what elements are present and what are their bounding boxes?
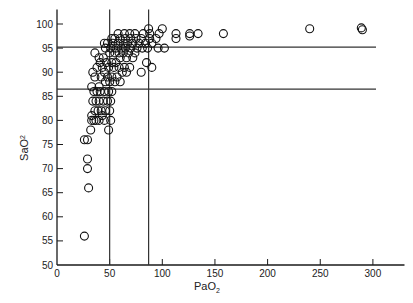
x-tick-label: 0 — [54, 268, 60, 279]
x-axis-title: PaO2 — [194, 280, 220, 294]
data-points — [80, 24, 366, 240]
data-point — [172, 35, 180, 43]
y-tick-label: 85 — [42, 91, 54, 102]
y-tick-label: 65 — [42, 187, 54, 198]
y-tick-label: 90 — [42, 67, 54, 78]
data-point — [143, 59, 151, 67]
tick-labels: 0501001502002503005055606570758085909510… — [36, 19, 381, 280]
x-tick-label: 100 — [154, 268, 171, 279]
data-point — [84, 155, 92, 163]
data-point — [87, 126, 95, 134]
data-point — [89, 68, 97, 76]
data-point — [194, 30, 202, 38]
y-tick-label: 50 — [42, 260, 54, 271]
data-point — [144, 44, 152, 52]
y-tick-label: 75 — [42, 139, 54, 150]
y-tick-label: 60 — [42, 211, 54, 222]
y-tick-label: 100 — [36, 19, 53, 30]
y-tick-label: 95 — [42, 43, 54, 54]
data-point — [91, 49, 99, 57]
y-tick-label: 55 — [42, 235, 54, 246]
data-point — [85, 184, 93, 192]
x-tick-label: 50 — [104, 268, 116, 279]
y-tick-label: 80 — [42, 115, 54, 126]
data-point — [105, 126, 113, 134]
reference-lines — [57, 10, 376, 265]
data-point — [219, 30, 227, 38]
y-tick-label: 70 — [42, 163, 54, 174]
data-point — [80, 232, 88, 240]
data-point — [306, 25, 314, 33]
data-point — [84, 165, 92, 173]
data-point — [137, 68, 145, 76]
x-tick-label: 150 — [207, 268, 224, 279]
x-tick-label: 200 — [259, 268, 276, 279]
x-tick-label: 250 — [312, 268, 329, 279]
y-axis-title: SaO2 — [18, 135, 30, 161]
data-point — [131, 30, 139, 38]
scatter-chart: 0501001502002503005055606570758085909510… — [0, 0, 413, 303]
x-tick-label: 300 — [365, 268, 382, 279]
